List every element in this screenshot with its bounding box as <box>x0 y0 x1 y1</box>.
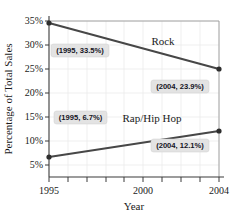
y-axis-title: Percentage of Total Sales <box>2 43 14 154</box>
datapoint-rap-1995 <box>46 154 51 159</box>
y-tick-label-20: 20% <box>25 87 43 98</box>
y-tick-label-30: 30% <box>25 39 43 50</box>
x-tick-label-2000: 2000 <box>133 185 153 196</box>
x-tick-label-2004: 2004 <box>209 185 229 196</box>
datapoint-rap-2004 <box>216 128 221 133</box>
series-label-rock: Rock <box>151 35 175 47</box>
callout-rock-start-text: (1995, 33.5%) <box>56 46 104 55</box>
x-tickmarks <box>49 177 219 182</box>
y-tick-label-10: 10% <box>25 135 43 146</box>
y-tick-label-5: 5% <box>30 159 43 170</box>
datapoint-rock-1995 <box>46 20 51 25</box>
line-chart: 35% 30% 25% 20% 15% 10% 5% 1995 2000 200… <box>0 0 234 214</box>
y-tick-label-25: 25% <box>25 63 43 74</box>
callout-rap-end: (2004, 12.1%) <box>151 139 209 152</box>
callout-rock-start: (1995, 33.5%) <box>51 44 109 57</box>
y-tick-label-35: 35% <box>25 15 43 26</box>
y-tickmarks <box>45 21 49 165</box>
x-tick-label-1995: 1995 <box>39 185 59 196</box>
datapoint-rock-2004 <box>216 66 221 71</box>
y-tick-label-15: 15% <box>25 111 43 122</box>
callout-rock-end-text: (2004, 23.9%) <box>156 82 204 91</box>
callout-rock-end: (2004, 23.9%) <box>151 80 209 93</box>
series-label-rap: Rap/Hip Hop <box>123 112 182 124</box>
x-axis-title: Year <box>124 200 145 212</box>
callout-rap-start: (1995, 6.7%) <box>54 111 107 124</box>
callout-rap-start-text: (1995, 6.7%) <box>59 113 103 122</box>
chart-page: 35% 30% 25% 20% 15% 10% 5% 1995 2000 200… <box>0 0 234 214</box>
callout-rap-end-text: (2004, 12.1%) <box>156 141 204 150</box>
